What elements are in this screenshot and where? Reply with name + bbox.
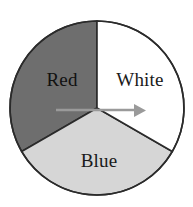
sector-label-red: Red [46, 69, 78, 90]
spinner-diagram: Red White Blue [0, 0, 193, 207]
spinner-figure: Red White Blue [0, 0, 193, 207]
sector-label-blue: Blue [81, 150, 118, 171]
sector-label-white: White [116, 69, 163, 90]
